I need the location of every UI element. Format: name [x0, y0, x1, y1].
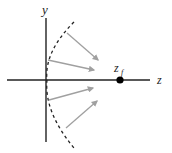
wavefront-diagram: y z z f: [0, 0, 172, 153]
ray-arrow-4: [66, 101, 97, 128]
wavefront-arc: [47, 22, 74, 148]
ray-arrow-3: [49, 88, 93, 100]
ray-arrow-1: [67, 33, 98, 60]
focal-point-subscript: f: [121, 68, 125, 77]
z-axis-label: z: [156, 73, 162, 87]
focal-point-dot: [116, 76, 123, 83]
ray-arrow-2: [48, 60, 94, 70]
y-axis-label: y: [40, 2, 48, 17]
focal-point-label: z: [113, 61, 119, 75]
